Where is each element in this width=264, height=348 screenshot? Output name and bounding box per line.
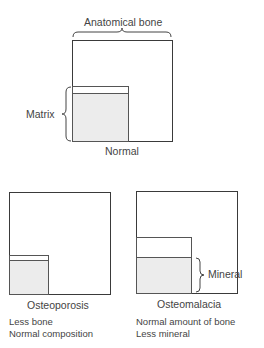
osteomalacia-mineral-fill [137,257,191,293]
osteoporosis-note-1: Less bone [9,316,53,328]
top-brace-icon [72,28,172,38]
normal-caption: Normal [105,145,139,157]
osteoporosis-caption: Osteoporosis [27,299,89,311]
osteomalacia-caption: Osteomalacia [157,298,221,310]
matrix-label: Matrix [26,108,55,120]
osteoporosis-note-2: Normal composition [9,328,93,340]
mineral-brace-icon [196,257,206,293]
osteomalacia-note-1: Normal amount of bone [136,316,235,328]
matrix-brace-icon [60,86,72,142]
normal-mineral-fill [73,93,128,141]
mineral-label: Mineral [208,268,242,280]
osteomalacia-note-2: Less mineral [136,328,190,340]
anatomical-bone-label: Anatomical bone [84,16,162,28]
osteoporosis-mineral-fill [10,260,48,294]
